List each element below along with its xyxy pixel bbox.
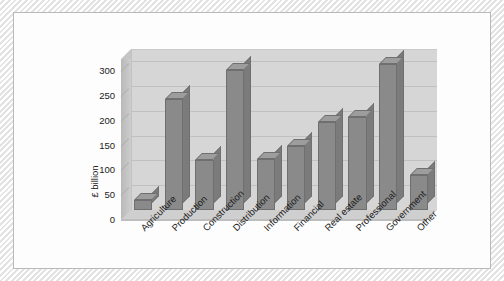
outer-frame: £ billion 050100150200250300 Agriculture… <box>0 0 504 281</box>
bar-chart: £ billion 050100150200250300 Agriculture… <box>13 12 491 269</box>
x-tick-label: Other <box>415 209 439 233</box>
x-axis-labels: AgricultureProductionConstructionDistrib… <box>13 12 491 269</box>
